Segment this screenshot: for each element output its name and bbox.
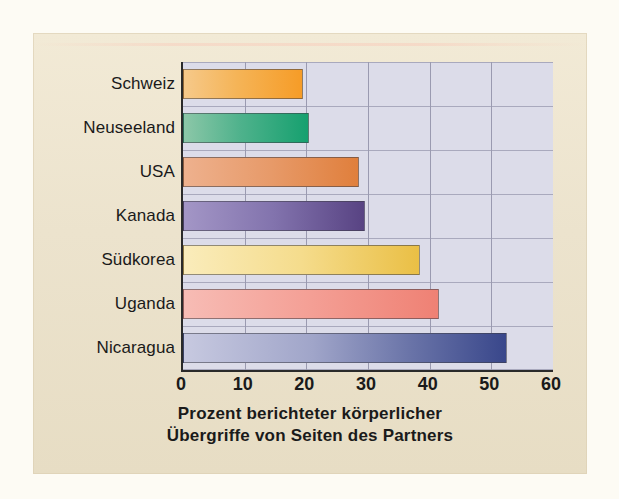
category-label-neuseeland: Neuseeland xyxy=(15,119,175,136)
vertical-gridline xyxy=(368,62,369,370)
x-tick-50: 50 xyxy=(479,374,499,395)
x-tick-0: 0 xyxy=(176,374,186,395)
category-label-suedkorea: Südkorea xyxy=(15,251,175,268)
x-tick-40: 40 xyxy=(418,374,438,395)
figure: Schweiz Neuseeland USA Kanada Südkorea U… xyxy=(0,0,619,499)
bar-suedkorea xyxy=(183,245,420,275)
bar-neuseeland xyxy=(183,113,309,143)
bar-usa xyxy=(183,157,359,187)
category-label-schweiz: Schweiz xyxy=(15,75,175,92)
scan-streak xyxy=(33,43,587,46)
caption-line-1: Prozent berichteter körperlicher xyxy=(33,403,587,425)
bar-kanada xyxy=(183,201,365,231)
plot-inner xyxy=(183,62,553,370)
chart-caption: Prozent berichteter körperlicher Übergri… xyxy=(33,403,587,447)
bar-nicaragua xyxy=(183,333,507,363)
category-label-usa: USA xyxy=(15,163,175,180)
plot-area xyxy=(181,62,553,372)
vertical-gridline xyxy=(430,62,431,370)
caption-line-2: Übergriffe von Seiten des Partners xyxy=(33,425,587,447)
x-tick-30: 30 xyxy=(356,374,376,395)
category-label-uganda: Uganda xyxy=(15,295,175,312)
x-tick-20: 20 xyxy=(294,374,314,395)
vertical-gridline xyxy=(491,62,492,370)
category-label-kanada: Kanada xyxy=(15,207,175,224)
bar-schweiz xyxy=(183,69,303,99)
x-tick-10: 10 xyxy=(233,374,253,395)
x-axis-tick-labels: 0 10 20 30 40 50 60 xyxy=(181,374,551,398)
x-tick-60: 60 xyxy=(541,374,561,395)
y-axis-category-labels: Schweiz Neuseeland USA Kanada Südkorea U… xyxy=(10,62,175,370)
bar-uganda xyxy=(183,289,439,319)
category-label-nicaragua: Nicaragua xyxy=(15,339,175,356)
